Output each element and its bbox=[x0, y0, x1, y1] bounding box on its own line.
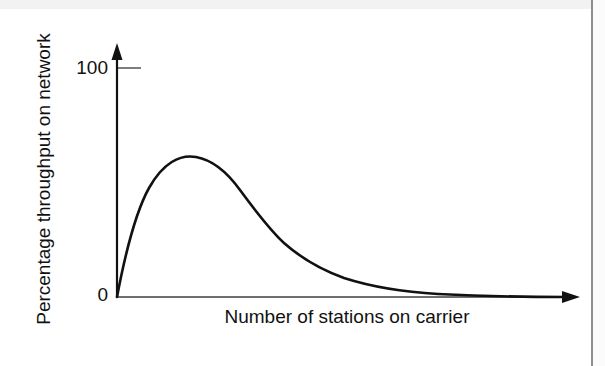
y-axis bbox=[112, 43, 123, 297]
figure-page: 100 0 Percentage throughput on network N… bbox=[0, 0, 605, 366]
x-axis-title: Number of stations on carrier bbox=[117, 306, 577, 328]
y-axis-arrowhead bbox=[112, 43, 123, 60]
throughput-chart: 100 0 Percentage throughput on network N… bbox=[0, 0, 605, 366]
throughput-curve bbox=[117, 156, 566, 297]
y-axis-title: Percentage throughput on network bbox=[33, 29, 55, 329]
